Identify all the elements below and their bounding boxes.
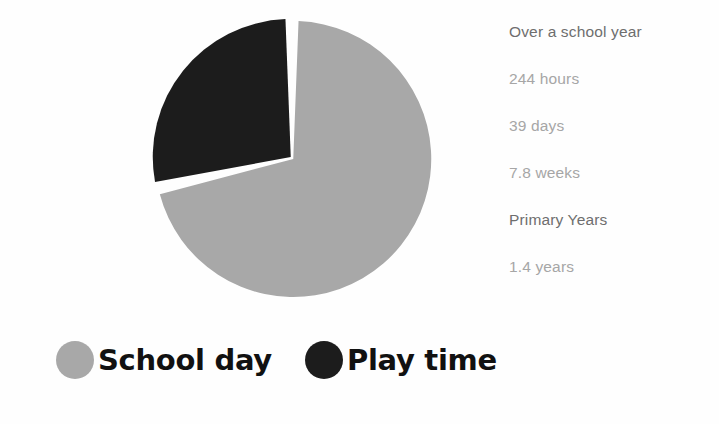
stat-line-years: 1.4 years: [509, 259, 714, 306]
pie-chart-svg: [148, 14, 436, 302]
legend-label-play-time: Play time: [347, 346, 497, 375]
pie-slice-play-time[interactable]: [153, 19, 291, 182]
legend-item-play-time[interactable]: Play time: [305, 336, 497, 384]
stat-line-hours: 244 hours: [509, 71, 714, 118]
pie-chart-figure: Over a school year 244 hours 39 days 7.8…: [0, 0, 719, 424]
stat-line-weeks: 7.8 weeks: [509, 165, 714, 212]
circle-swatch-black-icon: [305, 341, 343, 379]
summary-stats-panel: Over a school year 244 hours 39 days 7.8…: [509, 24, 714, 306]
stat-line-over-a-school-year: Over a school year: [509, 24, 714, 71]
legend-item-school-day[interactable]: School day: [56, 336, 272, 384]
legend-label-school-day: School day: [98, 346, 272, 375]
stat-line-days: 39 days: [509, 118, 714, 165]
pie-chart: [148, 14, 436, 302]
stat-line-primary-years: Primary Years: [509, 212, 714, 259]
chart-legend: School day Play time: [56, 336, 526, 384]
circle-swatch-gray-icon: [56, 341, 94, 379]
